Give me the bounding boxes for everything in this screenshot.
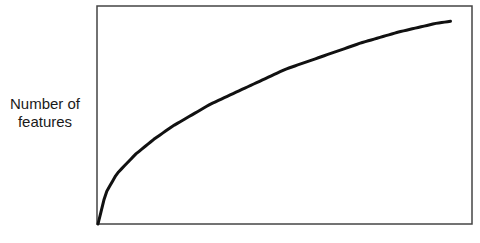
plot-frame (97, 6, 472, 224)
plot-area (0, 0, 480, 243)
data-line (98, 21, 451, 224)
